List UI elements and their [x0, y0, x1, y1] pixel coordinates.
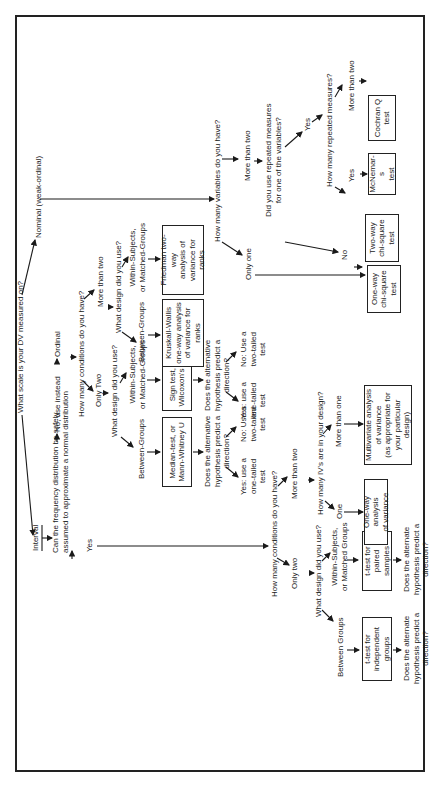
interval-direction-question-2: Does the alternate hypothesis predict a …: [402, 524, 431, 595]
two-way-chi-square-box: Two-waychi-squaretest: [365, 214, 399, 262]
scale-ordinal: Ordinal: [53, 331, 63, 357]
interval-more-than-two: More than two: [290, 448, 300, 499]
nominal-variables-question: How many variables do you have?: [213, 120, 223, 242]
repeated-question: Did you use repeated measures for one of…: [264, 104, 283, 217]
friedman-box: Friedman two-wayanalysis ofvariance forr…: [162, 225, 204, 295]
how-many-repeated: How many repeated measures?: [325, 74, 335, 187]
ordinal-within-more: Within-Subjects, or Matched-Groups: [128, 223, 147, 292]
ordinal-design-question-more: What design did you use?: [114, 241, 124, 333]
ordinal-between-more: Between-Groups: [137, 302, 147, 362]
root-question: What scale is your DV measured on?: [16, 281, 26, 413]
one-way-anova-box: One-way analysisof variance: [364, 479, 388, 545]
median-test-box: Median-test, orMann-Whitney U: [162, 417, 192, 487]
mcnemar-box: McNemar-stest: [368, 153, 396, 195]
ordinal-direction-question-a: Does the alternative hypothesis predict …: [203, 416, 232, 487]
flowchart-rotated: What scale is your DV measured on? Inter…: [0, 0, 433, 787]
normality-yes: Yes: [85, 539, 95, 552]
ivs-more-than-one: More than one: [334, 395, 344, 447]
interval-within: Within-Subjects, or Matched Groups: [330, 523, 349, 591]
ordinal-design-question-two: What design did you use?: [110, 345, 120, 437]
nominal-yes: Yes: [303, 118, 313, 131]
ordinal-conditions-question: How many conditions do you have?: [77, 291, 87, 417]
yes-one-tailed-a: Yes: use a one-tailed test: [239, 458, 268, 495]
scale-interval: Interval: [31, 525, 41, 551]
repeated-more-than-two: More than two: [347, 60, 357, 111]
one-way-chi-square-box: One-waychi-squaretest: [367, 265, 401, 313]
manova-box: Multivariate analysisof variance(as appr…: [364, 385, 412, 465]
repeated-yes: Yes: [347, 169, 357, 182]
ordinal-only-two: Only Two: [94, 374, 104, 407]
yes-one-tailed-b: Yes: use a one-tailed test: [239, 382, 268, 419]
t-test-independent-box: t-test forindependent groups: [362, 617, 392, 681]
kruskal-wallis-box: Kruskall-Wallisone-way analysisof varian…: [162, 299, 204, 367]
nominal-no: No: [340, 250, 350, 260]
ordinal-direction-question-b: Does the alternative hypothesis predict …: [203, 340, 232, 411]
no-two-tailed-b: No: Use a two-tailed test: [239, 331, 268, 367]
ivs-question: How many IV's are in your design?: [316, 392, 326, 515]
nominal-only-one: Only one: [244, 248, 254, 280]
interval-conditions-question: How many conditions do you have?: [270, 471, 280, 597]
ordinal-between: Between-Groups: [137, 419, 147, 479]
ivs-one: One: [335, 504, 345, 519]
ordinal-more-than-two: More than two: [96, 256, 106, 307]
normality-no: No, use instead: [53, 376, 63, 432]
nominal-more-than-two: More than two: [243, 130, 253, 181]
interval-direction-question-1: Does the alternate hypothesis predict a …: [402, 613, 431, 684]
interval-between: Between Groups: [336, 617, 346, 677]
scale-nominal: Nominal (weak-ordinal): [34, 156, 44, 238]
interval-only-two: Only two: [290, 558, 300, 589]
interval-design-question: What design did you use?: [314, 525, 324, 617]
cochran-q-box: Cochran Qtest: [368, 95, 396, 141]
